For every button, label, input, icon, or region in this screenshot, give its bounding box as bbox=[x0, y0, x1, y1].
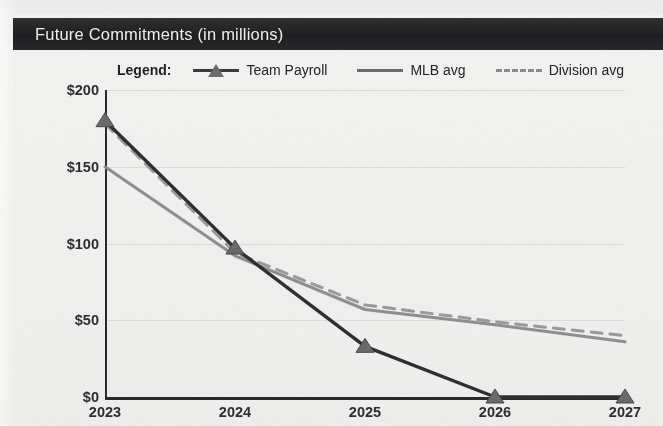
y-axis-tick-label: $0 bbox=[41, 389, 99, 405]
triangle-marker-icon bbox=[193, 63, 239, 77]
y-axis-tick-label: $200 bbox=[41, 82, 99, 98]
gridline bbox=[105, 167, 625, 168]
legend-item-mlb-avg[interactable]: MLB avg bbox=[357, 62, 465, 78]
y-axis-tick-label: $150 bbox=[41, 159, 99, 175]
data-point-marker bbox=[616, 389, 634, 403]
y-axis-labels: $200$150$100$50$0 bbox=[37, 90, 99, 397]
chart-legend: Legend: Team Payroll MLB avg Division av… bbox=[117, 58, 627, 82]
data-point-marker bbox=[356, 338, 374, 352]
y-axis-tick-label: $50 bbox=[41, 312, 99, 328]
gridline bbox=[105, 244, 625, 245]
x-axis-tick-label: 2025 bbox=[330, 404, 400, 420]
chart-title-bar: Future Commitments (in millions) bbox=[13, 18, 663, 50]
series-line-team-payroll bbox=[105, 121, 625, 397]
data-point-marker bbox=[226, 240, 244, 254]
x-axis-tick-label: 2024 bbox=[200, 404, 270, 420]
line-marker-icon bbox=[357, 63, 403, 77]
chart-title: Future Commitments (in millions) bbox=[35, 25, 283, 44]
x-axis-line bbox=[105, 397, 627, 400]
x-axis-tick-label: 2023 bbox=[70, 404, 140, 420]
dashed-line-marker-icon bbox=[496, 63, 542, 77]
y-axis-line bbox=[105, 90, 107, 399]
chart-area: Legend: Team Payroll MLB avg Division av… bbox=[13, 50, 663, 414]
series-line-division-avg bbox=[105, 124, 625, 336]
chart-series-layer bbox=[13, 50, 663, 414]
x-axis-tick-label: 2027 bbox=[590, 404, 660, 420]
legend-title: Legend: bbox=[117, 62, 171, 78]
legend-item-division-avg[interactable]: Division avg bbox=[496, 62, 624, 78]
gridline bbox=[105, 90, 625, 91]
series-line-mlb-avg bbox=[105, 167, 625, 342]
data-point-marker bbox=[486, 389, 504, 403]
x-axis-tick-label: 2026 bbox=[460, 404, 530, 420]
legend-label-mlb-avg: MLB avg bbox=[410, 62, 465, 78]
legend-label-division-avg: Division avg bbox=[549, 62, 624, 78]
y-axis-tick-label: $100 bbox=[41, 236, 99, 252]
gridline bbox=[105, 320, 625, 321]
legend-label-team-payroll: Team Payroll bbox=[246, 62, 327, 78]
legend-item-team-payroll[interactable]: Team Payroll bbox=[193, 62, 327, 78]
